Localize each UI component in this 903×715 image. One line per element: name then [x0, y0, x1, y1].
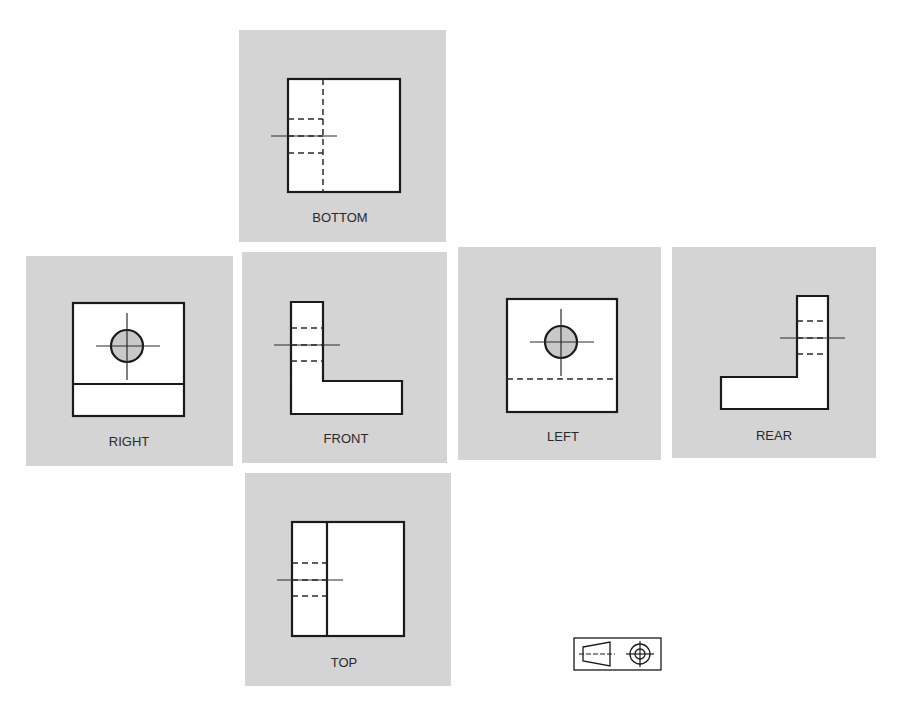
object-outline [292, 522, 404, 636]
view-right: RIGHT [26, 256, 233, 466]
view-label: LEFT [547, 429, 579, 444]
view-top: TOP [245, 473, 451, 686]
view-label: REAR [756, 428, 792, 443]
view-label: TOP [331, 655, 358, 670]
third-angle-projection-symbol-icon [574, 638, 661, 670]
view-front: FRONT [242, 252, 447, 463]
orthographic-views-diagram: BOTTOM RIGHT FRONT LEFT [0, 0, 903, 715]
view-panel [672, 247, 876, 458]
view-left: LEFT [458, 247, 661, 460]
view-label: BOTTOM [312, 210, 367, 225]
view-bottom: BOTTOM [239, 30, 446, 242]
view-label: FRONT [324, 431, 369, 446]
view-rear: REAR [672, 247, 876, 458]
view-label: RIGHT [109, 434, 150, 449]
